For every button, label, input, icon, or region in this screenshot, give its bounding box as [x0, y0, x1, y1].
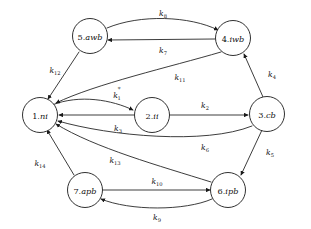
- edge-label-e9: k9: [153, 213, 161, 224]
- edge-e4-n3-to-n4: [244, 54, 263, 97]
- edge-label-e8: k8: [159, 9, 167, 20]
- node-label-n5: 5.awb: [78, 32, 103, 42]
- edge-e7-n4-to-n5: [108, 39, 215, 40]
- node-label-n2: 2.ii: [145, 111, 158, 121]
- node-n6-ipb[interactable]: 6.ipb: [211, 173, 246, 208]
- node-n4-iwb[interactable]: 4.iwb: [216, 21, 251, 56]
- edge-label-e2: k2: [201, 101, 209, 112]
- node-n7-apb[interactable]: 7.apb: [68, 173, 103, 208]
- diagram-canvas: 1.ni2.ii3.cb4.iwb5.awb6.ipb7.apb k8k7k12…: [0, 0, 311, 229]
- edge-label-e10: k10: [151, 177, 162, 188]
- edge-label-e4: k4: [268, 70, 277, 81]
- node-n5-awb[interactable]: 5.awb: [73, 19, 108, 54]
- edge-label-e12: k12: [49, 66, 60, 77]
- node-n2-ii[interactable]: 2.ii: [135, 98, 170, 133]
- node-label-n3: 3.cb: [258, 110, 276, 120]
- node-label-n1: 1.ni: [32, 111, 48, 121]
- node-label-n6: 6.ipb: [218, 186, 239, 196]
- edge-label-e1: k*1: [113, 87, 121, 102]
- node-n1-ni[interactable]: 1.ni: [23, 98, 58, 133]
- edge-e9-n6-to-n7: [101, 199, 212, 208]
- edge-label-e7: k7: [159, 46, 167, 57]
- edge-e14-n7-to-n1: [47, 130, 74, 175]
- node-n3-cb[interactable]: 3.cb: [250, 97, 285, 132]
- edge-e5-n3-to-n6: [241, 130, 262, 175]
- edge-e8-n5-to-n4: [107, 18, 218, 30]
- edge-e11-n4-to-n1: [56, 52, 221, 103]
- edge-label-e6: k6: [201, 143, 209, 154]
- edge-e12-n5-to-n1: [48, 52, 79, 99]
- edge-label-e5: k5: [266, 148, 274, 159]
- edge-label-e14: k14: [34, 159, 46, 170]
- state-transition-diagram: 1.ni2.ii3.cb4.iwb5.awb6.ipb7.apb k8k7k12…: [0, 0, 311, 229]
- edge-label-e13: k13: [109, 156, 120, 167]
- edge-label-e11: k11: [174, 73, 185, 84]
- node-label-n4: 4.iwb: [222, 34, 245, 44]
- node-label-n7: 7.apb: [73, 186, 96, 196]
